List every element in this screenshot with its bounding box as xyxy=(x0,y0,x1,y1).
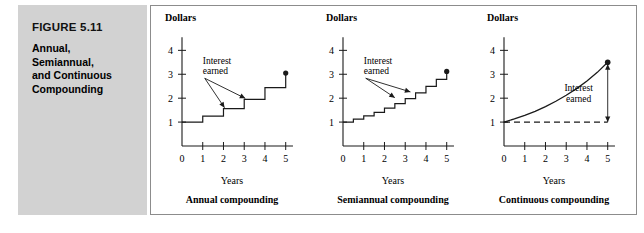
chart-panel-annual: Dollars 1234012345Interestearned Years A… xyxy=(151,6,313,214)
y-axis-title-continuous: Dollars xyxy=(487,12,518,23)
step-series-path xyxy=(343,71,447,122)
chart-svg-semiannual: 1234012345Interestearned xyxy=(312,24,474,174)
y-tick-label-1: 1 xyxy=(490,117,495,128)
plot-area-annual: 1234012345Interestearned xyxy=(151,24,313,174)
interest-bracket-arrow-down xyxy=(605,117,610,123)
y-tick-label-4: 4 xyxy=(490,45,495,56)
figure-title: Annual, Semiannual, and Continuous Compo… xyxy=(32,42,144,96)
y-tick-label-4: 4 xyxy=(168,45,173,56)
chart-svg-continuous: 1234012345Interestearned xyxy=(473,24,635,174)
x-tick-label-4: 4 xyxy=(423,153,428,164)
plot-area-continuous: 1234012345Interestearned xyxy=(473,24,635,174)
x-tick-label-5: 5 xyxy=(605,153,610,164)
x-tick-label-1: 1 xyxy=(522,153,527,164)
y-tick-label-1: 1 xyxy=(329,117,334,128)
annotation-interest-text: Interest xyxy=(364,56,393,66)
x-axis-title-continuous: Years xyxy=(473,175,635,186)
y-tick-label-2: 2 xyxy=(329,93,334,104)
x-tick-label-1: 1 xyxy=(361,153,366,164)
figure-title-line-2: Semiannual, xyxy=(32,56,144,70)
annotation-interest-text: Interest xyxy=(564,83,593,93)
annotation-arrowhead-2 xyxy=(219,102,224,108)
y-tick-label-3: 3 xyxy=(329,69,334,80)
annotation-earned-text: earned xyxy=(364,66,390,76)
x-tick-label-0: 0 xyxy=(341,153,346,164)
x-tick-label-0: 0 xyxy=(502,153,507,164)
y-axis-title-annual: Dollars xyxy=(165,12,196,23)
chart-caption-annual: Annual compounding xyxy=(151,194,313,205)
x-tick-label-0: 0 xyxy=(180,153,185,164)
figure-title-line-4: Compounding xyxy=(32,83,144,97)
endpoint-marker xyxy=(605,60,611,66)
x-tick-label-5: 5 xyxy=(283,153,288,164)
x-tick-label-3: 3 xyxy=(242,153,247,164)
x-tick-label-3: 3 xyxy=(403,153,408,164)
figure-caption-panel: FIGURE 5.11 Annual, Semiannual, and Cont… xyxy=(18,5,147,215)
chart-svg-annual: 1234012345Interestearned xyxy=(151,24,313,174)
endpoint-marker xyxy=(283,70,288,75)
step-series-path xyxy=(182,73,286,122)
x-tick-label-2: 2 xyxy=(543,153,548,164)
annotation-earned-text: earned xyxy=(566,94,592,104)
chart-panel-continuous: Dollars 1234012345Interestearned Years C… xyxy=(473,6,635,214)
x-tick-label-3: 3 xyxy=(564,153,569,164)
y-tick-label-3: 3 xyxy=(490,69,495,80)
x-tick-label-4: 4 xyxy=(584,153,589,164)
y-axis-title-semiannual: Dollars xyxy=(326,12,357,23)
charts-container: Dollars 1234012345Interestearned Years A… xyxy=(150,5,637,215)
y-tick-label-4: 4 xyxy=(329,45,334,56)
charts-panels: Dollars 1234012345Interestearned Years A… xyxy=(151,6,636,214)
annotation-arrow-3 xyxy=(366,78,411,92)
figure-title-line-1: Annual, xyxy=(32,42,144,56)
x-axis-title-annual: Years xyxy=(151,175,313,186)
x-tick-label-2: 2 xyxy=(382,153,387,164)
annotation-arrowhead-2 xyxy=(389,92,395,97)
y-tick-label-1: 1 xyxy=(168,117,173,128)
annotation-interest-text: Interest xyxy=(203,56,232,66)
figure-number: FIGURE 5.11 xyxy=(32,21,147,33)
x-axis-title-semiannual: Years xyxy=(312,175,474,186)
annotation-earned-text: earned xyxy=(203,66,229,76)
x-tick-label-1: 1 xyxy=(200,153,205,164)
x-tick-label-5: 5 xyxy=(444,153,449,164)
endpoint-marker xyxy=(444,69,449,74)
x-tick-label-2: 2 xyxy=(221,153,226,164)
y-tick-label-3: 3 xyxy=(168,69,173,80)
y-tick-label-2: 2 xyxy=(168,93,173,104)
figure-title-line-3: and Continuous xyxy=(32,69,144,83)
chart-caption-semiannual: Semiannual compounding xyxy=(312,194,474,205)
x-tick-label-4: 4 xyxy=(262,153,267,164)
y-tick-label-2: 2 xyxy=(490,93,495,104)
figure-root: FIGURE 5.11 Annual, Semiannual, and Cont… xyxy=(0,0,644,233)
annotation-arrow-3 xyxy=(205,78,246,98)
chart-panel-semiannual: Dollars 1234012345Interestearned Years S… xyxy=(312,6,474,214)
plot-area-semiannual: 1234012345Interestearned xyxy=(312,24,474,174)
chart-caption-continuous: Continuous compounding xyxy=(473,194,635,205)
